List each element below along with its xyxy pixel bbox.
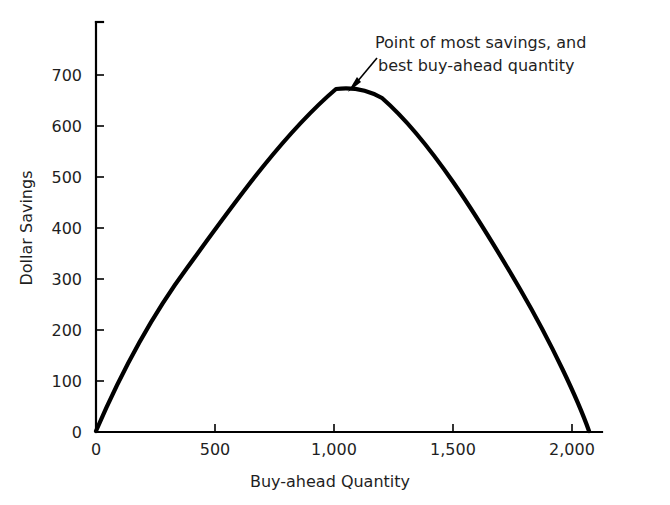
annotation-line-2: best buy-ahead quantity bbox=[378, 56, 575, 75]
y-tick-label-200: 200 bbox=[51, 321, 82, 340]
y-tick-label-500: 500 bbox=[51, 168, 82, 187]
savings-curve bbox=[96, 88, 589, 431]
y-axis-title: Dollar Savings bbox=[17, 171, 36, 286]
x-tick-label-2000: 2,000 bbox=[549, 440, 595, 459]
chart-svg: 0 100 200 300 400 500 600 700 0 500 1,00… bbox=[0, 0, 670, 505]
chart-figure: 0 100 200 300 400 500 600 700 0 500 1,00… bbox=[0, 0, 670, 505]
annotation-line-1: Point of most savings, and bbox=[375, 33, 586, 52]
x-tick-label-1500: 1,500 bbox=[430, 440, 476, 459]
y-tick-label-100: 100 bbox=[51, 372, 82, 391]
x-tick-label-1000: 1,000 bbox=[311, 440, 357, 459]
y-tick-label-400: 400 bbox=[51, 219, 82, 238]
x-tick-label-500: 500 bbox=[200, 440, 231, 459]
x-tick-label-0: 0 bbox=[91, 440, 101, 459]
y-tick-label-700: 700 bbox=[51, 66, 82, 85]
y-tick-label-300: 300 bbox=[51, 270, 82, 289]
y-tick-label-600: 600 bbox=[51, 117, 82, 136]
y-tick-label-0: 0 bbox=[72, 423, 82, 442]
x-axis-title: Buy-ahead Quantity bbox=[250, 472, 410, 491]
